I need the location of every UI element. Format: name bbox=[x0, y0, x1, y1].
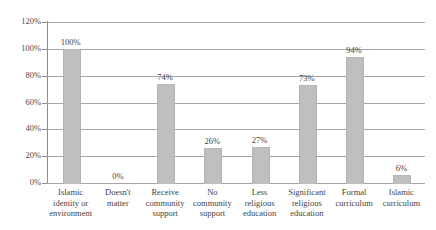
x-axis-category-line: Doesn't bbox=[91, 187, 145, 198]
x-axis-category-label: Islamiccurriculum bbox=[374, 187, 428, 208]
x-axis-category-line: support bbox=[185, 208, 239, 219]
bar bbox=[63, 49, 81, 184]
y-axis-tick-label: 80% bbox=[0, 71, 48, 80]
y-axis-tick-label: 120% bbox=[0, 17, 48, 26]
y-axis-tick-label: 20% bbox=[0, 151, 48, 160]
x-axis-category-label: Nocommunitysupport bbox=[185, 187, 239, 219]
bar-value-label: 26% bbox=[189, 136, 235, 146]
gridline bbox=[47, 183, 425, 184]
x-axis-category-label: Formalcurriculum bbox=[327, 187, 381, 208]
x-axis-category-label: Islamicidentity orenvironment bbox=[44, 187, 98, 219]
x-axis-category-line: Islamic bbox=[44, 187, 98, 198]
x-axis-category-line: Islamic bbox=[374, 187, 428, 198]
bar-value-label: 27% bbox=[237, 135, 283, 145]
y-axis-tick-label: 60% bbox=[0, 98, 48, 107]
x-axis-category-line: education bbox=[280, 208, 334, 219]
bar-chart: 0%20%40%60%80%100%120% 100%0%74%26%27%73… bbox=[0, 0, 436, 230]
x-axis-category-line: matter bbox=[91, 198, 145, 209]
y-axis-tick-label: 0% bbox=[0, 178, 48, 187]
x-axis-category-line: No bbox=[185, 187, 239, 198]
x-axis-category-line: curriculum bbox=[327, 198, 381, 209]
bar-value-label: 73% bbox=[284, 73, 330, 83]
bar-value-label: 0% bbox=[95, 171, 141, 181]
x-axis-category-line: Receive bbox=[138, 187, 192, 198]
x-axis-category-line: environment bbox=[44, 208, 98, 219]
y-axis-tick-label: 40% bbox=[0, 124, 48, 133]
x-axis-category-line: community bbox=[185, 198, 239, 209]
x-axis-category-label: Lessreligiouseducation bbox=[233, 187, 287, 219]
bar-value-label: 6% bbox=[378, 163, 424, 173]
bar bbox=[393, 175, 411, 184]
x-axis-category-line: Less bbox=[233, 187, 287, 198]
x-axis-category-line: religious bbox=[233, 198, 287, 209]
bar bbox=[204, 148, 222, 184]
x-axis-category-line: education bbox=[233, 208, 287, 219]
bar-value-label: 100% bbox=[48, 37, 94, 47]
x-axis-category-label: Doesn'tmatter bbox=[91, 187, 145, 208]
x-axis-category-label: Significantreligiouseducation bbox=[280, 187, 334, 219]
bar-value-label: 74% bbox=[142, 72, 188, 82]
x-axis-category-line: identity or bbox=[44, 198, 98, 209]
x-axis-category-line: religious bbox=[280, 198, 334, 209]
x-axis-category-line: community bbox=[138, 198, 192, 209]
bar bbox=[346, 57, 364, 184]
x-axis-category-line: support bbox=[138, 208, 192, 219]
bar bbox=[157, 84, 175, 184]
x-axis-category-line: Formal bbox=[327, 187, 381, 198]
bar bbox=[299, 85, 317, 184]
x-axis-category-line: Significant bbox=[280, 187, 334, 198]
x-axis-category-line: curriculum bbox=[374, 198, 428, 209]
x-axis-category-label: Receivecommunitysupport bbox=[138, 187, 192, 219]
bar bbox=[252, 147, 270, 184]
y-axis-tick-label: 100% bbox=[0, 44, 48, 53]
bar-value-label: 94% bbox=[331, 45, 377, 55]
